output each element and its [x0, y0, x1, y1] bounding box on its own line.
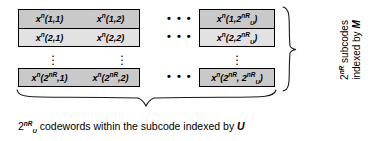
- table-row: xn(2nR, 2nRU): [200, 69, 274, 86]
- cell-x-2-last: xn(2,2nRU): [200, 33, 274, 43]
- cell-x-last-last: xn(2nR, 2nRU): [200, 73, 274, 83]
- cell-x-2-2: xn(2,2): [80, 33, 141, 43]
- dot: .: [117, 60, 127, 64]
- cell-x-last-1: xn(2nR,1): [19, 73, 80, 83]
- caption-text: codewords within the subcode indexed by: [37, 120, 237, 132]
- cell-x-1-1: xn(1,1): [19, 14, 80, 24]
- right-caption-prefix: 2: [339, 74, 350, 80]
- cell-x-2-1: xn(2,1): [19, 33, 80, 43]
- dot: .: [48, 60, 58, 64]
- codeword-block-right-bottom: xn(2nR, 2nRU): [199, 68, 275, 87]
- bottom-caption: 2nRU codewords within the subcode indexe…: [18, 120, 308, 132]
- right-caption-line-1: 2nR subcodes: [339, 20, 351, 80]
- bottom-brace: [16, 89, 278, 113]
- table-row: xn(1,1) xn(1,2): [19, 10, 139, 28]
- right-caption-exponent: nR: [338, 66, 345, 75]
- table-row: xn(1,2nRU): [200, 10, 274, 28]
- codeword-block-left-top: xn(1,1) xn(1,2) xn(2,1) xn(2,2): [18, 9, 140, 47]
- codeword-block-left-bottom: xn(2nR,1) xn(2nR,2): [18, 68, 140, 87]
- column-ellipsis-last: . . .: [232, 52, 242, 65]
- table-row: xn(2,2nRU): [200, 28, 274, 46]
- table-row: xn(2,1) xn(2,2): [19, 28, 139, 46]
- cell-x-1-2: xn(1,2): [80, 14, 141, 24]
- column-ellipsis-1: . . .: [48, 52, 58, 65]
- cell-x-last-2: xn(2nR,2): [80, 73, 141, 83]
- caption-symbol-u: U: [237, 120, 245, 132]
- row-ellipsis-1: • • •: [167, 13, 192, 23]
- caption-exponent: nR: [24, 120, 33, 127]
- right-caption-line-2: indexed by M: [351, 20, 363, 80]
- codebook-grid-figure: xn(1,1) xn(1,2) xn(2,1) xn(2,2) xn(1,2nR…: [0, 0, 371, 141]
- right-caption-symbol-m: M: [351, 20, 362, 28]
- right-caption-indexed-by: indexed by: [351, 29, 362, 80]
- cell-x-1-last: xn(1,2nRU): [200, 14, 274, 24]
- column-ellipsis-2: . . .: [117, 52, 127, 65]
- row-ellipsis-2: • • •: [167, 31, 192, 41]
- codeword-block-right-top: xn(1,2nRU) xn(2,2nRU): [199, 9, 275, 47]
- right-brace: [281, 6, 303, 92]
- right-caption: 2nR subcodes indexed by M: [303, 2, 371, 98]
- right-caption-text: subcodes: [339, 20, 350, 66]
- row-ellipsis-last: • • •: [167, 71, 192, 81]
- dot: .: [232, 60, 242, 64]
- table-row: xn(2nR,1) xn(2nR,2): [19, 69, 139, 86]
